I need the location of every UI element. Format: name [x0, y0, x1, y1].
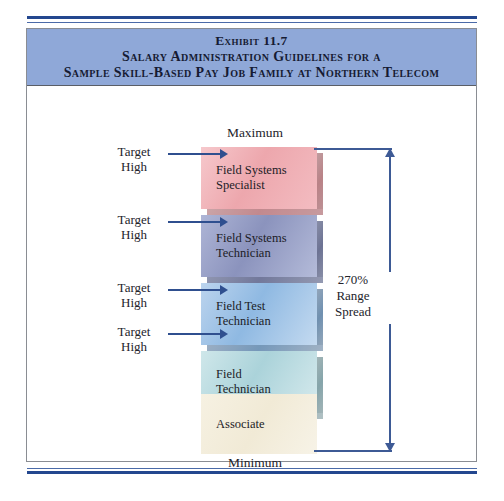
top-rule-thick [27, 16, 477, 19]
band-label-line-1: Field Systems [216, 163, 317, 178]
band-label-line-2: Technician [216, 246, 317, 261]
band-label-line-1: Associate [216, 417, 317, 432]
bottom-rule-thick [27, 471, 477, 474]
band-label-line-1: Field Systems [216, 231, 317, 246]
band-label-line-2: Technician [216, 314, 317, 329]
range-tick-bottom [314, 450, 392, 452]
range-tick-top [314, 148, 392, 150]
exhibit-title-line-2: Sample Skill-Based Pay Job Family at Nor… [27, 65, 476, 81]
arrow-head-up-icon [385, 148, 395, 157]
exhibit-card: Exhibit 11.7 Salary Administration Guide… [26, 28, 477, 462]
top-rule-thin [27, 22, 477, 23]
band-label-line-2: Specialist [216, 178, 317, 193]
arrow-head-down-icon [385, 443, 395, 452]
range-shaft-upper [389, 156, 391, 272]
range-spread-line-2: Range [323, 288, 383, 304]
range-spread-line-3: Spread [323, 304, 383, 320]
band-label-line-2: Technician [216, 382, 317, 397]
band-label-line-1: Field Test [216, 299, 317, 314]
exhibit-title-banner: Exhibit 11.7 Salary Administration Guide… [27, 29, 476, 86]
range-shaft-lower [389, 324, 391, 452]
exhibit-number: Exhibit 11.7 [27, 33, 476, 49]
range-spread-value: 270% [323, 272, 383, 288]
range-spread-label: 270% Range Spread [323, 272, 383, 320]
exhibit-title-line-1: Salary Administration Guidelines for a [27, 49, 476, 65]
range-spread-group: 270% Range Spread [27, 86, 476, 462]
diagram-stage: Maximum Minimum Field Systems Specialist… [27, 86, 476, 462]
band-label-line-1: Field [216, 367, 317, 382]
